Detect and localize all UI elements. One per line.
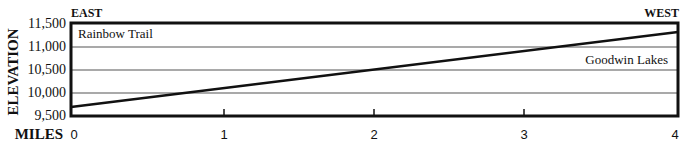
rainbow-trail-label: Rainbow Trail [78, 26, 153, 41]
x-tick-label-2: 2 [370, 127, 377, 142]
y-tick-label-11000: 11,000 [28, 39, 66, 54]
y-tick-label-11500: 11,500 [28, 16, 66, 31]
x-tick-label-4: 4 [671, 127, 678, 142]
x-tick-label-1: 1 [220, 127, 227, 142]
west-label: WEST [644, 6, 679, 20]
y-tick-label-10000: 10,000 [28, 85, 67, 100]
elevation-profile-chart: EAST WEST Rainbow Trail Goodwin Lakes 11… [0, 0, 685, 146]
east-label: EAST [71, 6, 102, 20]
x-tick-label-3: 3 [520, 127, 527, 142]
y-tick-label-9500: 9,500 [35, 108, 67, 123]
chart-canvas: EAST WEST Rainbow Trail Goodwin Lakes 11… [0, 0, 685, 146]
x-tick-label-0: 0 [70, 127, 77, 142]
goodwin-lakes-label: Goodwin Lakes [585, 52, 668, 67]
y-tick-label-10500: 10,500 [28, 62, 67, 77]
y-axis-title: ELEVATION [5, 28, 21, 115]
x-axis-title: MILES [15, 126, 63, 142]
